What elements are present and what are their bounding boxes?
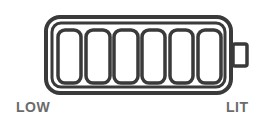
lit-label: LIT — [226, 100, 249, 114]
battery-segment-1 — [58, 30, 81, 83]
battery-segment-4 — [142, 30, 165, 83]
low-label: LOW — [16, 100, 50, 114]
battery-terminal — [233, 44, 247, 66]
battery-segment-6 — [198, 30, 221, 83]
battery-segment-2 — [86, 30, 110, 83]
battery-segment-5 — [170, 30, 193, 83]
battery-segment-3 — [114, 30, 138, 83]
